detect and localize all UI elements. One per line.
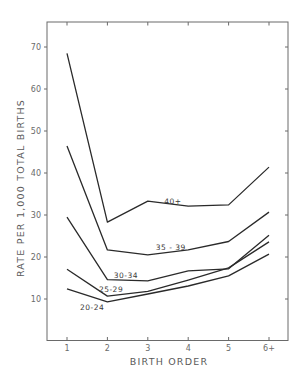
series-label: 25-29 bbox=[99, 285, 123, 294]
series-lines bbox=[67, 53, 269, 302]
axis-ticks: 123456+10203040506070 bbox=[31, 22, 288, 353]
y-tick-label: 30 bbox=[31, 211, 41, 220]
x-tick-label: 2 bbox=[105, 344, 110, 353]
plot-frame bbox=[47, 22, 288, 341]
series-label: 35 - 39 bbox=[156, 243, 186, 252]
series-labels: 40+35 - 3930-3425-2920-24 bbox=[80, 197, 186, 312]
x-tick-label: 3 bbox=[145, 344, 150, 353]
x-tick-label: 6+ bbox=[263, 344, 275, 353]
y-axis-title: RATE PER 1,000 TOTAL BIRTHS bbox=[15, 99, 26, 277]
series-label: 20-24 bbox=[80, 303, 104, 312]
x-tick-label: 4 bbox=[186, 344, 191, 353]
x-axis-title: BIRTH ORDER bbox=[130, 356, 208, 367]
y-tick-label: 70 bbox=[31, 43, 41, 52]
y-tick-label: 60 bbox=[31, 85, 41, 94]
y-tick-label: 50 bbox=[31, 127, 41, 136]
line-chart: 123456+10203040506070 40+35 - 3930-3425-… bbox=[0, 0, 306, 390]
series-label: 30-34 bbox=[114, 271, 138, 280]
y-tick-label: 10 bbox=[31, 295, 41, 304]
x-tick-label: 5 bbox=[226, 344, 231, 353]
x-tick-label: 1 bbox=[64, 344, 69, 353]
y-tick-label: 40 bbox=[31, 169, 41, 178]
series-label: 40+ bbox=[164, 197, 181, 206]
y-tick-label: 20 bbox=[31, 253, 41, 262]
